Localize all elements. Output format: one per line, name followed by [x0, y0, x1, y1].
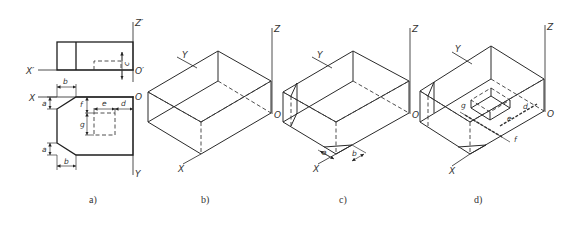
dim-e-label: e [507, 114, 512, 123]
caption-a: a) [89, 194, 97, 206]
dim-a-label: a [322, 148, 327, 157]
svg-text:X: X [312, 164, 320, 174]
caption-c: c) [339, 194, 347, 206]
caption-b: b) [201, 194, 209, 206]
svg-text:O: O [412, 110, 419, 120]
dim-f-label: f [514, 135, 518, 144]
o-label: O [135, 92, 142, 102]
z-label: Z [273, 24, 281, 34]
svg-text:O: O [547, 109, 554, 119]
dim-c-label: c [122, 61, 131, 66]
svg-text:Z: Z [411, 24, 419, 34]
top-view-hidden-recess [94, 113, 115, 135]
y-label: Y [135, 169, 142, 179]
panel-a-orthographic: Z′ X′ O′ c b a e d f g [25, 18, 144, 206]
dim-d-label: d [121, 99, 126, 108]
x-label: X [177, 164, 185, 174]
panel-b-isometric-box: Z Y O X b) [148, 24, 281, 206]
caption-d: d) [474, 194, 482, 206]
o-prime-label: O′ [135, 66, 144, 76]
dim-b-top-label: b [63, 77, 68, 86]
dim-d-label: d [523, 102, 528, 111]
o-label: O [274, 110, 281, 120]
svg-text:Y: Y [455, 44, 462, 54]
svg-text:Y: Y [317, 50, 324, 60]
dim-e-label: e [102, 99, 107, 108]
x-prime-label: X′ [25, 66, 34, 76]
dim-f-label: f [80, 100, 84, 109]
front-view-hidden-recess [94, 61, 121, 70]
dim-b-bottom-label: b [64, 157, 69, 166]
dim-b-label: b [352, 149, 357, 158]
svg-text:X: X [448, 166, 456, 176]
svg-text:Z: Z [546, 22, 554, 32]
x-label: X [28, 93, 36, 103]
dim-a-bottom-label: a [42, 145, 47, 154]
panel-d-isometric-recess: g f e d Z Y O X d) [420, 22, 554, 206]
dim-g-label: g [80, 120, 85, 129]
y-label: Y [182, 50, 189, 60]
z-prime-label: Z′ [134, 18, 143, 28]
x-axis [183, 154, 201, 164]
dim-g-label: g [461, 101, 466, 110]
panel-c-isometric-chamfers: a b Z Y O X c) [283, 24, 419, 206]
dim-a-top-label: a [42, 99, 47, 108]
technical-drawing: Z′ X′ O′ c b a e d f g [0, 0, 579, 229]
